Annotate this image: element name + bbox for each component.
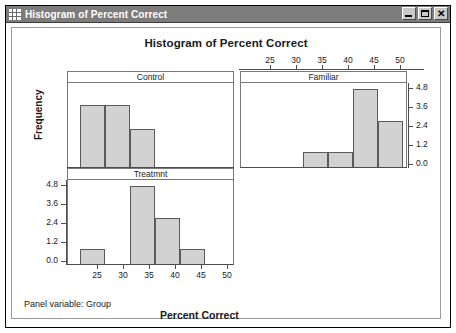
close-icon: ✕ (435, 8, 447, 19)
bottom-tick (175, 265, 176, 269)
left-ytick-label: 4.8 (34, 179, 58, 189)
panel-familiar-label: Familiar (240, 71, 407, 83)
panel-treatment-baseline (67, 264, 234, 265)
left-tick (61, 223, 66, 224)
top-tick-label: 40 (337, 55, 359, 65)
panel-control-label: Control (67, 71, 234, 83)
top-tick-label: 30 (285, 55, 307, 65)
left-tick (61, 185, 66, 186)
bar (303, 152, 328, 168)
title-bar[interactable]: Histogram of Percent Correct ✕ (6, 6, 450, 23)
panel-treatment-label: Treatmnt (67, 168, 234, 180)
window-title: Histogram of Percent Correct (25, 9, 167, 20)
panel-control-plot (67, 83, 234, 168)
bar (353, 89, 378, 168)
right-tick (408, 107, 413, 108)
right-ytick-label: 0.0 (416, 158, 440, 168)
bottom-tick (201, 265, 202, 269)
right-tick (408, 145, 413, 146)
bottom-tick-label: 45 (190, 270, 212, 280)
left-ytick-label: 2.4 (34, 217, 58, 227)
left-ytick-label: 1.2 (34, 236, 58, 246)
panel-familiar-baseline (240, 167, 407, 168)
x-axis-title: Percent Correct (160, 309, 239, 321)
bottom-tick-label: 35 (138, 270, 160, 280)
left-ytick-label: 3.6 (34, 198, 58, 208)
y-axis-title: Frequency (33, 126, 44, 140)
minimize-button[interactable] (402, 7, 416, 20)
top-tick-label: 50 (389, 55, 411, 65)
panel-variable-note: Panel variable: Group (24, 299, 111, 309)
bottom-tick-label: 30 (112, 270, 134, 280)
left-tick (61, 261, 66, 262)
right-ytick-label: 1.2 (416, 139, 440, 149)
top-tick-label: 35 (311, 55, 333, 65)
window-grid-icon (9, 9, 21, 20)
bottom-tick-label: 25 (86, 270, 108, 280)
minimize-icon (405, 15, 412, 17)
bottom-tick-label: 40 (164, 270, 186, 280)
chart-title: Histogram of Percent Correct (12, 37, 440, 49)
right-ytick-label: 4.8 (416, 82, 440, 92)
right-ytick-label: 3.6 (416, 101, 440, 111)
left-axis-line (66, 180, 67, 265)
left-ytick-label: 0.0 (34, 255, 58, 265)
panel-familiar-plot (240, 83, 407, 168)
window-controls: ✕ (402, 7, 448, 20)
right-tick (408, 88, 413, 89)
bar (155, 218, 180, 265)
bar (80, 249, 105, 265)
top-tick-label: 25 (259, 55, 281, 65)
bar (328, 152, 353, 168)
bottom-tick (97, 265, 98, 269)
panel-control: Control (67, 71, 234, 168)
window-client-area: Histogram of Percent Correct Frequency P… (6, 23, 450, 327)
right-ytick-label: 2.4 (416, 120, 440, 130)
application-window: Histogram of Percent Correct ✕ Histogram… (5, 5, 451, 328)
bottom-tick (227, 265, 228, 269)
maximize-button[interactable] (418, 7, 432, 20)
left-tick (61, 242, 66, 243)
left-tick (61, 204, 66, 205)
bar (378, 121, 403, 168)
right-tick (408, 164, 413, 165)
top-tick-label: 45 (363, 55, 385, 65)
bar (130, 186, 155, 265)
bottom-tick (123, 265, 124, 269)
panel-treatment: Treatmnt (67, 168, 234, 265)
top-axis-line (239, 69, 424, 70)
bar (180, 249, 205, 265)
bottom-tick (149, 265, 150, 269)
bar (105, 105, 130, 168)
panel-familiar: Familiar (240, 71, 407, 168)
bottom-tick-label: 50 (216, 270, 238, 280)
maximize-icon (421, 10, 429, 17)
bar (130, 129, 155, 168)
bar (80, 105, 105, 168)
close-button[interactable]: ✕ (434, 7, 448, 20)
right-tick (408, 126, 413, 127)
panel-treatment-plot (67, 180, 234, 265)
graph-frame: Histogram of Percent Correct Frequency P… (11, 27, 441, 319)
